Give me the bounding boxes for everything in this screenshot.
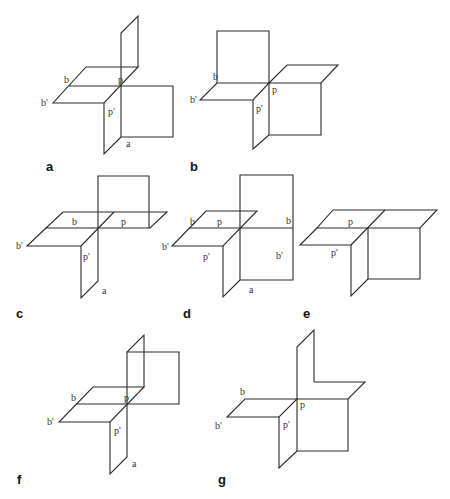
point-label-b: b	[64, 74, 69, 85]
point-label-b-prime-right: b'	[276, 250, 283, 261]
point-label-a: a	[102, 285, 107, 296]
point-label-p: p	[118, 74, 123, 85]
panel-f: b b' p p' a f	[17, 335, 179, 487]
panel-label-b: b	[190, 159, 198, 174]
upper-left-square-plane	[217, 31, 269, 83]
front-horizontal-plane	[27, 228, 81, 246]
left-horizontal-plane	[227, 399, 297, 417]
right-square-plane	[121, 86, 173, 137]
point-label-a: a	[126, 138, 131, 149]
point-label-b-prime: b'	[16, 240, 23, 251]
panel-d: b b' p p' a b b' d	[162, 175, 293, 321]
point-label-a: a	[132, 458, 137, 469]
point-label-p-prime: p'	[256, 103, 263, 114]
panel-c: b b' p p' a c	[16, 176, 167, 321]
lower-front-plane	[110, 404, 127, 474]
point-label-p: p	[121, 216, 126, 227]
panel-e: p p' e	[300, 210, 437, 321]
point-label-p: p	[300, 399, 305, 410]
point-label-p: p	[124, 392, 129, 403]
point-label-p: p	[348, 216, 353, 227]
left-horizontal-plane	[200, 83, 269, 100]
panel-label-e: e	[303, 306, 310, 321]
panel-g: b b' p p' g	[215, 330, 365, 487]
point-label-a: a	[249, 284, 254, 295]
panel-label-d: d	[183, 306, 191, 321]
point-label-b: b	[213, 71, 218, 82]
point-label-b-prime: b'	[162, 241, 169, 252]
point-label-b-prime: b'	[41, 97, 48, 108]
point-label-p-prime: p'	[203, 251, 210, 262]
lower-front-plane	[351, 245, 368, 296]
panel-label-f: f	[17, 472, 22, 487]
point-label-b-prime: b'	[190, 94, 197, 105]
point-label-b: b	[190, 216, 195, 227]
right-horizontal-plane	[297, 382, 365, 399]
point-label-b-right: b	[286, 215, 291, 226]
right-square-plane	[368, 228, 420, 279]
point-label-p-prime: p'	[114, 425, 121, 436]
panel-a: b b' p p' a a	[41, 16, 173, 174]
point-label-p: p	[217, 216, 222, 227]
panel-label-a: a	[46, 159, 54, 174]
plane-configurations-figure: b b' p p' a a b b' p p' b b b' p p' a c	[0, 0, 450, 499]
panel-b: b b' p p' b	[190, 31, 338, 174]
horizontal-plane	[53, 67, 138, 103]
point-label-p-prime: p'	[108, 106, 115, 117]
lower-front-plane	[81, 228, 98, 298]
point-label-p-prime: p'	[83, 251, 90, 262]
front-horizontal-plane	[300, 228, 351, 245]
point-label-b: b	[240, 386, 245, 397]
point-label-p: p	[272, 84, 277, 95]
lower-front-plane	[223, 246, 240, 297]
point-label-p-prime: p'	[283, 419, 290, 430]
right-horizontal-plane	[269, 65, 338, 83]
point-label-b: b	[72, 216, 77, 227]
point-label-b: b	[71, 392, 76, 403]
upper-vertical-plane	[127, 335, 144, 404]
panel-label-c: c	[16, 306, 23, 321]
panel-label-g: g	[218, 472, 226, 487]
point-label-b-prime: b'	[47, 416, 54, 427]
point-label-p-prime: p'	[331, 247, 338, 258]
upper-vertical-plane	[297, 330, 314, 399]
point-label-b-prime: b'	[215, 420, 222, 431]
